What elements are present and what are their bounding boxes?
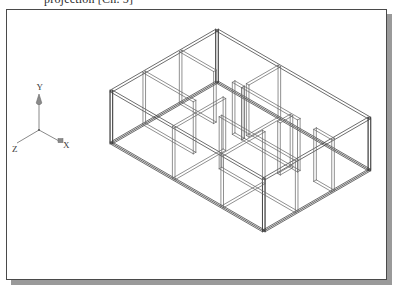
building-wireframe — [110, 29, 371, 232]
y-axis-label: Y — [37, 82, 44, 92]
isometric-drawing-canvas: Y Z X — [7, 10, 386, 279]
caption-text: projection [Ch. 5] — [44, 0, 133, 7]
y-axis-icon — [36, 94, 42, 130]
z-axis-icon — [17, 130, 39, 143]
x-axis-label: X — [63, 140, 70, 150]
caption-strip: projection [Ch. 5] — [0, 0, 408, 9]
x-axis-icon — [39, 130, 63, 143]
figure-frame: Y Z X — [6, 9, 387, 280]
z-axis-label: Z — [12, 144, 18, 154]
ucs-origin-dot — [38, 129, 40, 131]
ucs-axis-tripod — [17, 94, 63, 143]
